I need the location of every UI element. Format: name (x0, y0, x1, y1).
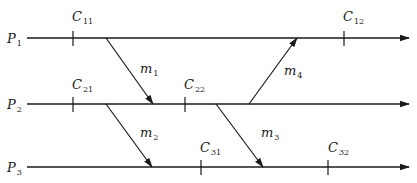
checkpoint-label-c22: C22 (184, 78, 205, 96)
message-label-m1: m1 (140, 62, 158, 80)
message-label-m3: m3 (261, 126, 279, 144)
message-arrow-m3 (216, 104, 263, 167)
message-label-m4: m4 (284, 64, 302, 82)
process-label-p3: P3 (7, 161, 22, 179)
checkpoint-label-c11: C11 (72, 10, 93, 28)
process-label-p1: P1 (7, 32, 22, 50)
process-label-p2: P2 (7, 98, 22, 116)
checkpoint-label-c12: C12 (343, 10, 364, 28)
message-label-m2: m2 (140, 126, 158, 144)
checkpoint-label-c32: C32 (328, 141, 349, 159)
checkpoint-label-c21: C21 (72, 78, 93, 96)
checkpoint-label-c31: C31 (200, 141, 221, 159)
